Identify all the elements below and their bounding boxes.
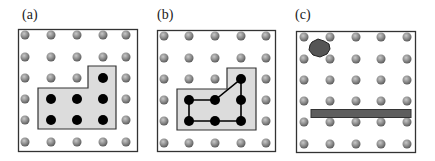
panel-b: (b): [157, 7, 276, 152]
bar-shape-c: [311, 110, 411, 118]
figure: (a) (b): [0, 0, 435, 161]
panel-label-a: (a): [22, 7, 38, 23]
panel-a: (a): [19, 7, 138, 152]
panel-label-b: (b): [157, 7, 174, 23]
panel-label-c: (c): [295, 7, 311, 23]
panel-c: (c): [295, 7, 416, 153]
